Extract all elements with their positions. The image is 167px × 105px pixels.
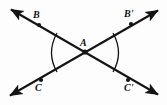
diagram-canvas	[0, 0, 167, 105]
point-dot-b	[37, 23, 41, 27]
vertex-point-a	[82, 49, 87, 54]
point-label-b-prime: B'	[124, 9, 133, 19]
geometry-diagram: A B B' C C'	[0, 0, 167, 105]
point-label-b: B	[33, 10, 40, 20]
point-label-c-prime: C'	[124, 83, 133, 93]
right-angle-arc	[113, 33, 119, 72]
left-angle-arc	[52, 33, 58, 72]
point-label-c: C	[35, 83, 42, 93]
vertex-label-a: A	[80, 38, 87, 48]
point-dot-b-prime	[129, 22, 133, 26]
